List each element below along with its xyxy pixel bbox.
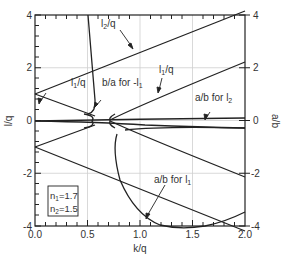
series-lens-left (84, 114, 93, 128)
series-l1q-upper (110, 62, 245, 120)
y-tick-labels-right: 4 2 0 -2 -4 (251, 10, 260, 232)
label-ab-l2: a/b for l2 (195, 92, 232, 104)
label-l2q: l2/q (101, 18, 115, 30)
x-axis-title: k/q (133, 243, 146, 254)
series-ab-l1-upper (125, 127, 245, 130)
series-l1-lower-left (35, 125, 95, 147)
svg-text:4: 4 (253, 10, 259, 21)
label-n1: n1=1.7 (50, 190, 78, 202)
svg-text:0.5: 0.5 (81, 229, 95, 240)
series-ba-l1 (88, 15, 95, 114)
y-tick-labels-left: 4 2 0 -2 -4 (23, 10, 32, 232)
svg-text:1.0: 1.0 (133, 229, 147, 240)
label-l1q-left: l1/q (71, 77, 85, 89)
chart: l2/q l1/q b/a for -l1 l1/q a/b for l2 a/… (0, 0, 287, 263)
label-ba-l1: b/a for -l1 (102, 77, 143, 89)
label-ab-l1: a/b for l1 (154, 174, 191, 186)
svg-text:-2: -2 (251, 168, 260, 179)
svg-text:2: 2 (26, 62, 32, 73)
x-tick-labels: 0.0 0.5 1.0 1.5 2.0 (28, 229, 252, 240)
svg-text:-4: -4 (23, 221, 32, 232)
series-lens-right (110, 114, 115, 128)
y-axis-title-left: l/q (3, 116, 14, 127)
series-l1q-descending (35, 94, 95, 116)
label-n2: n2=1.5 (50, 203, 78, 215)
svg-text:1.5: 1.5 (186, 229, 200, 240)
svg-text:2: 2 (253, 62, 259, 73)
svg-text:0: 0 (253, 115, 259, 126)
svg-text:-2: -2 (23, 168, 32, 179)
svg-text:0: 0 (26, 115, 32, 126)
y-axis-title-right: a/b (270, 114, 281, 128)
svg-text:-4: -4 (251, 221, 260, 232)
label-l1q-right: l1/q (159, 64, 173, 76)
svg-text:4: 4 (26, 10, 32, 21)
parameter-box: n1=1.7 n2=1.5 (48, 186, 78, 216)
